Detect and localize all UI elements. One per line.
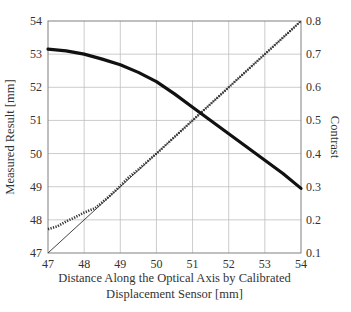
y-tick-label: 48 [30,213,42,227]
x-tick-label: 48 [78,257,90,271]
y2-tick-label: 0.4 [306,147,321,161]
y-axis-right-title: Contrast [328,116,342,159]
x-tick-label: 49 [114,257,126,271]
y2-tick-label: 0.6 [306,80,321,94]
y-tick-label: 52 [30,80,42,94]
y-tick-label: 50 [30,147,42,161]
chart: 4748495051525354 4748495051525354 0.10.2… [0,0,351,312]
x-axis-ticks: 4748495051525354 [42,257,307,271]
y2-tick-label: 0.5 [306,113,321,127]
y2-tick-label: 0.3 [306,180,321,194]
data-series [48,21,301,253]
y2-tick-label: 0.8 [306,14,321,28]
y-axis-left-ticks: 4748495051525354 [30,14,42,260]
measured-result-line [48,21,301,229]
x-tick-label: 53 [259,257,271,271]
y2-tick-label: 0.2 [306,213,321,227]
y-tick-label: 49 [30,180,42,194]
x-axis-title-line1: Distance Along the Optical Axis by Calib… [58,271,291,285]
y2-tick-label: 0.1 [306,246,321,260]
x-tick-label: 52 [223,257,235,271]
x-tick-label: 51 [187,257,199,271]
x-tick-label: 47 [42,257,54,271]
y-axis-left-title: Measured Result [mm] [3,79,17,194]
y-tick-label: 51 [30,113,42,127]
y2-tick-label: 0.7 [306,47,321,61]
x-tick-label: 50 [150,257,162,271]
y-axis-right-ticks: 0.10.20.30.40.50.60.70.8 [306,14,321,260]
y-tick-label: 54 [30,14,42,28]
contrast-line [48,49,301,188]
y-tick-label: 53 [30,47,42,61]
x-axis-title-line2: Displacement Sensor [mm] [106,287,243,301]
y-tick-label: 47 [30,246,42,260]
